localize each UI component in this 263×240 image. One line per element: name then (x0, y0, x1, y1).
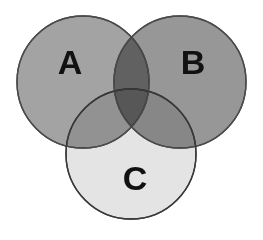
venn-diagram-figure: A B C (0, 0, 263, 240)
venn-label-b: B (181, 43, 206, 81)
venn-label-a: A (58, 43, 83, 81)
venn-diagram-canvas: A B C (0, 0, 263, 240)
venn-label-c: C (123, 159, 148, 197)
